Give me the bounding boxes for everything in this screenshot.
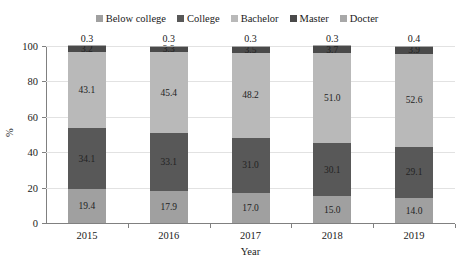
bar-segment[interactable]: 34.1 bbox=[68, 128, 106, 188]
bar-segment[interactable]: 45.4 bbox=[150, 52, 188, 132]
bar-stack[interactable]: 14.029.152.63.90.4 bbox=[395, 46, 433, 223]
x-axis-tick-label: 2017 bbox=[240, 229, 261, 242]
bar-segment[interactable]: 29.1 bbox=[395, 147, 433, 199]
bar-stack[interactable]: 17.031.048.23.50.3 bbox=[232, 46, 270, 223]
plot-area: 19.434.143.13.20.317.933.145.43.30.317.0… bbox=[46, 46, 455, 223]
bar-segment[interactable]: 14.0 bbox=[395, 198, 433, 223]
bar-segment-label: 48.2 bbox=[242, 90, 259, 100]
x-axis-tick-label: 2016 bbox=[158, 229, 179, 242]
bar-segment[interactable]: 3.5 bbox=[232, 47, 270, 53]
bar-stack[interactable]: 17.933.145.43.30.3 bbox=[150, 46, 188, 223]
bar-segment[interactable]: 3.7 bbox=[313, 46, 351, 53]
x-axis-tick-label: 2015 bbox=[76, 229, 97, 242]
legend-label: Bachelor bbox=[241, 13, 279, 24]
bar-segment-label: 19.4 bbox=[79, 201, 96, 211]
bar-segment[interactable] bbox=[313, 45, 351, 46]
bar-segment-label: 34.1 bbox=[79, 154, 96, 164]
y-axis-tick-label: 60 bbox=[8, 111, 38, 122]
bar-segment-label: 0.3 bbox=[326, 33, 339, 44]
legend-swatch-icon bbox=[177, 15, 184, 22]
bar-stack[interactable]: 19.434.143.13.20.3 bbox=[68, 46, 106, 223]
legend-item[interactable]: College bbox=[177, 13, 220, 24]
bar-segment[interactable]: 48.2 bbox=[232, 53, 270, 138]
legend-swatch-icon bbox=[290, 15, 297, 22]
bar-segment-label: 17.9 bbox=[160, 202, 177, 212]
bar-segment[interactable]: 43.1 bbox=[68, 52, 106, 128]
y-axis-tick-label: 20 bbox=[8, 182, 38, 193]
bar-segment[interactable] bbox=[232, 46, 270, 47]
x-axis-tick-label: 2019 bbox=[404, 229, 425, 242]
bar-segment-label: 29.1 bbox=[406, 167, 423, 177]
x-axis-ticks bbox=[46, 224, 455, 228]
x-axis-title: Year bbox=[46, 246, 455, 257]
bar-segment-label: 52.6 bbox=[406, 95, 423, 105]
bar-segment-label: 43.1 bbox=[79, 85, 96, 95]
bar-segment-label: 15.0 bbox=[324, 205, 341, 215]
bar-segment[interactable] bbox=[68, 45, 106, 46]
y-axis-tick-label: 100 bbox=[8, 41, 38, 52]
y-axis-tick-label: 0 bbox=[8, 218, 38, 229]
legend-label: College bbox=[187, 13, 220, 24]
bar-segment[interactable]: 17.9 bbox=[150, 191, 188, 223]
bar-stack[interactable]: 15.030.151.03.70.3 bbox=[313, 46, 351, 223]
bar-segment-label: 45.4 bbox=[160, 88, 177, 98]
x-axis-tick bbox=[291, 224, 292, 228]
legend-item[interactable]: Below college bbox=[96, 13, 166, 24]
bar-segment[interactable]: 52.6 bbox=[395, 54, 433, 147]
bar-segment[interactable] bbox=[150, 46, 188, 47]
bar-segment[interactable]: 31.0 bbox=[232, 138, 270, 193]
bar-segment[interactable]: 30.1 bbox=[313, 143, 351, 196]
bar-segment[interactable] bbox=[395, 46, 433, 47]
legend-label: Below college bbox=[106, 13, 166, 24]
legend-swatch-icon bbox=[96, 15, 103, 22]
bar-segment-label: 33.1 bbox=[160, 157, 177, 167]
bar-segment[interactable]: 3.3 bbox=[150, 47, 188, 53]
bar-segment[interactable]: 33.1 bbox=[150, 133, 188, 192]
bar-segment[interactable]: 17.0 bbox=[232, 193, 270, 223]
y-axis-tick-label: 80 bbox=[8, 76, 38, 87]
x-axis-tick bbox=[128, 224, 129, 228]
bar-segment-label: 0.3 bbox=[244, 33, 257, 44]
chart-legend: Below collegeCollegeBachelorMasterDocter bbox=[0, 13, 474, 24]
y-axis-title: % bbox=[4, 128, 15, 137]
x-axis-tick bbox=[373, 224, 374, 228]
chart-area: 020406080100 % 19.434.143.13.20.317.933.… bbox=[0, 32, 474, 271]
legend-item[interactable]: Master bbox=[290, 13, 329, 24]
x-axis-tick-labels: 20152016201720182019 bbox=[46, 229, 455, 243]
bar-segment-label: 31.0 bbox=[242, 160, 259, 170]
x-axis-tick-label: 2018 bbox=[322, 229, 343, 242]
y-axis-tick-label: 40 bbox=[8, 147, 38, 158]
bar-segment-label: 17.0 bbox=[242, 203, 259, 213]
bar-segment[interactable]: 3.2 bbox=[68, 46, 106, 52]
legend-item[interactable]: Bachelor bbox=[231, 13, 279, 24]
bar-segment-label: 0.3 bbox=[162, 33, 175, 44]
bar-segment-label: 0.3 bbox=[81, 33, 94, 44]
bar-segment-label: 51.0 bbox=[324, 93, 341, 103]
bar-segment-label: 14.0 bbox=[406, 206, 423, 216]
bar-segment[interactable]: 3.9 bbox=[395, 47, 433, 54]
legend-label: Master bbox=[300, 13, 329, 24]
bar-segment[interactable]: 19.4 bbox=[68, 189, 106, 223]
x-axis-tick bbox=[455, 224, 456, 228]
bar-segment-label: 30.1 bbox=[324, 165, 341, 175]
x-axis-tick bbox=[210, 224, 211, 228]
bar-segment[interactable]: 51.0 bbox=[313, 53, 351, 143]
legend-item[interactable]: Docter bbox=[340, 13, 379, 24]
bar-segment-label: 0.4 bbox=[408, 33, 421, 44]
bar-segment[interactable]: 15.0 bbox=[313, 196, 351, 223]
legend-swatch-icon bbox=[231, 15, 238, 22]
legend-label: Docter bbox=[350, 13, 379, 24]
legend-swatch-icon bbox=[340, 15, 347, 22]
